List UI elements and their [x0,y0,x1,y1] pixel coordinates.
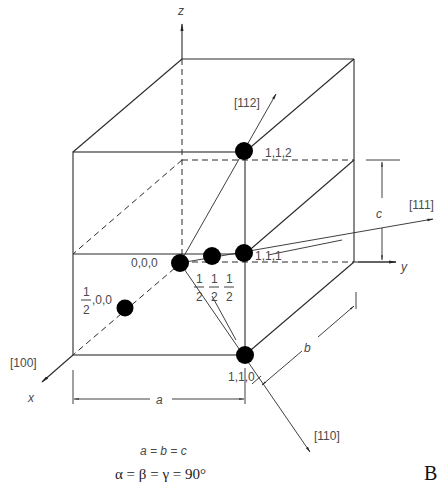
svg-text:2: 2 [226,290,233,304]
lattice-point-111 [235,244,253,262]
angles-relation: α = β = γ = 90° [115,466,206,482]
lattice-point-000 [171,254,189,272]
coordinate-axes: z y x [27,4,408,405]
svg-text:2: 2 [196,290,203,304]
dimension-c-label: c [376,207,382,221]
dimension-b-label: b [304,341,311,355]
label-half-00-numerator: 1 [83,285,90,299]
cubic-unit-cell-diagram: z y x a b c [0,0,440,485]
label-112: 1,1,2 [265,146,292,160]
direction-112-arrow-icon [180,94,276,263]
cube-hidden-edges [73,59,354,355]
lattice-point-half-00 [117,300,134,317]
cube-visible-edges [73,59,354,355]
label-111: 1,1,1 [255,249,282,263]
direction-vectors [180,94,433,452]
dimension-a-label: a [156,393,163,407]
svg-text:2: 2 [211,290,218,304]
direction-labels: [100] [110] [111] [112] [10,96,434,443]
label-half-00-denominator: 2 [83,303,90,317]
lattice-point-half-half-half [203,247,221,265]
lattice-point-112 [235,142,253,160]
svg-text:1: 1 [196,272,203,286]
x-axis-arrow-icon [42,355,73,382]
x-axis-label: x [27,391,35,405]
direction-label-110: [110] [314,429,340,443]
label-110: 1,1,0 [228,370,255,384]
direction-label-112: [112] [234,96,260,110]
svg-text:1: 1 [226,272,233,286]
lengths-relation: a = b = c [140,444,187,458]
dimension-c: c [358,160,400,262]
label-half-00-rest: ,0,0 [92,293,112,307]
label-000: 0,0,0 [131,256,158,270]
lattice-point-110 [236,346,254,364]
dimension-a: a [73,368,245,407]
z-axis-label: z [177,4,184,18]
y-axis-label: y [400,260,408,274]
panel-label: B [424,462,437,484]
direction-label-111: [111] [409,198,434,212]
svg-text:1: 1 [211,272,218,286]
direction-label-100: [100] [10,356,37,370]
label-half-half-half: 1 2 1 2 1 2 [194,272,234,304]
dimension-b: b [252,292,356,385]
